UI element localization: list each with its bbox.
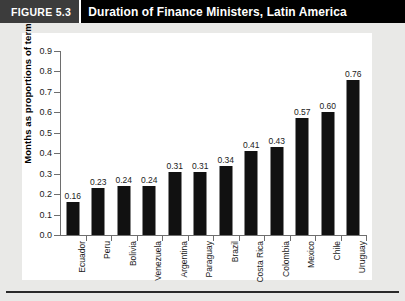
bottom-rule [6,291,399,293]
x-axis-tick-label: Ecuador [77,241,87,273]
bar-value-label: 0.41 [243,140,260,150]
bar-group: 0.60 [315,51,341,235]
bar [347,80,360,235]
bar [168,172,181,235]
x-axis-tick-label: Argentina [179,241,189,277]
bar [66,202,79,235]
bar [219,166,232,236]
bar-group: 0.43 [264,51,290,235]
bar-group: 0.41 [239,51,265,235]
bar [143,186,156,235]
x-axis-tick-label: Brazil [230,241,240,262]
bar-value-label: 0.34 [217,155,234,165]
bar-value-label: 0.24 [115,175,132,185]
bar-group: 0.24 [137,51,163,235]
bar-value-label: 0.43 [268,136,285,146]
bar-value-label: 0.23 [90,177,107,187]
figure-header: FIGURE 5.3 Duration of Finance Ministers… [0,0,405,23]
y-axis-tick [54,235,60,236]
bar [245,151,258,235]
x-axis-tick-label: Costa Rica [255,241,265,283]
bar-value-label: 0.24 [141,175,158,185]
y-axis-tick-label: 0.1 [22,210,52,220]
bar-group: 0.31 [188,51,214,235]
bar [92,188,105,235]
figure-container: FIGURE 5.3 Duration of Finance Ministers… [0,0,405,301]
bar-value-label: 0.31 [166,161,183,171]
bar-value-label: 0.31 [192,161,209,171]
bar-value-label: 0.76 [345,69,362,79]
x-axis-tick-label: Chile [332,241,342,260]
y-axis-tick-label: 0.2 [22,189,52,199]
bar-group: 0.57 [290,51,316,235]
x-axis-tick-label: Paraguay [204,241,214,277]
bar-group: 0.31 [162,51,188,235]
bars-plot-area: 0.160.230.240.240.310.310.340.410.430.57… [60,51,366,235]
x-axis-tick-label: Mexico [306,241,316,268]
bar-group: 0.24 [111,51,137,235]
x-axis-tick-label: Bolivia [128,241,138,266]
bar-group: 0.16 [60,51,86,235]
bar [270,147,283,235]
bar [194,172,207,235]
x-axis-tick-label: Peru [102,241,112,259]
bar-value-label: 0.60 [319,101,336,111]
x-axis-tick-label: Venezuela [153,241,163,281]
bar [321,112,334,235]
bar-group: 0.76 [341,51,367,235]
x-axis-tick-label: Uruguay [357,241,367,273]
bar-group: 0.23 [86,51,112,235]
x-axis-tick-label: Colombia [281,241,291,277]
figure-number-label: FIGURE 5.3 [0,0,79,23]
bar-value-label: 0.16 [64,191,81,201]
y-axis-tick-label: 0.3 [22,169,52,179]
bar [117,186,130,235]
bar [296,118,309,235]
y-axis-title: Months as proportions of term [22,19,33,169]
figure-title: Duration of Finance Ministers, Latin Ame… [81,0,347,23]
bar-value-label: 0.57 [294,107,311,117]
y-axis-tick-label: 0.0 [22,230,52,240]
bar-group: 0.34 [213,51,239,235]
